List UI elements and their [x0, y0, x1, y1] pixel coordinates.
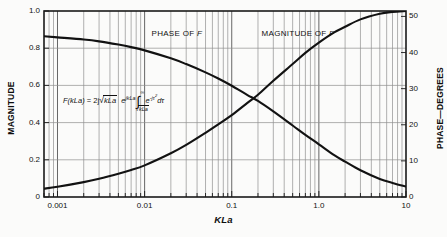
- x-axis-title: KLa: [0, 214, 447, 225]
- y-right-tick-label: 50: [409, 11, 439, 20]
- annotation-phase-text: PHASE OF: [152, 29, 195, 38]
- equation-exp-sup: jkLa: [126, 95, 136, 101]
- y-left-tick-label: 0: [10, 192, 40, 201]
- y-left-tick-label: 0.4: [10, 118, 40, 127]
- y-axis-right-title: PHASE—DEGREES: [435, 60, 445, 156]
- x-tick-label: 0.01: [125, 201, 165, 210]
- x-tick-label: 1.0: [299, 201, 339, 210]
- annotation-phase-var: F: [197, 29, 202, 38]
- equation-differential: dτ: [157, 96, 164, 105]
- equation-root1: kLa: [103, 95, 117, 105]
- x-tick-label: 10: [386, 201, 426, 210]
- integral-lower-limit: √kLa: [136, 105, 149, 113]
- equation-annotation: F(kLa) = 2j√kLa ejkLa∫∞√kLa e-jτ2dτ: [63, 93, 164, 105]
- y-left-tick-label: 0.8: [10, 43, 40, 52]
- y-right-tick-label: 10: [409, 156, 439, 165]
- y-left-tick-label: 0.2: [10, 155, 40, 164]
- annotation-magnitude-text: MAGNITUDE OF: [262, 29, 327, 38]
- annotation-phase-of-f: PHASE OF F: [152, 29, 203, 38]
- y-right-tick-label: 0: [409, 192, 439, 201]
- equation-lhs-arg: (kLa): [68, 96, 85, 105]
- y-left-tick-label: 0.6: [10, 80, 40, 89]
- equation-equals: =: [87, 96, 91, 105]
- chart-figure: MAGNITUDE PHASE—DEGREES KLa 00.20.40.60.…: [0, 0, 447, 237]
- annotation-magnitude-of-f: MAGNITUDE OF F: [262, 29, 335, 38]
- y-right-tick-label: 20: [409, 120, 439, 129]
- annotation-magnitude-var: F: [329, 29, 334, 38]
- integral-upper-limit: ∞: [141, 89, 145, 96]
- integral-icon: ∫∞√kLa: [137, 98, 141, 105]
- y-left-tick-label: 1.0: [10, 6, 40, 15]
- x-tick-label: 0.001: [37, 201, 77, 210]
- y-right-tick-label: 30: [409, 84, 439, 93]
- x-tick-label: 0.1: [212, 201, 252, 210]
- y-right-tick-label: 40: [409, 48, 439, 57]
